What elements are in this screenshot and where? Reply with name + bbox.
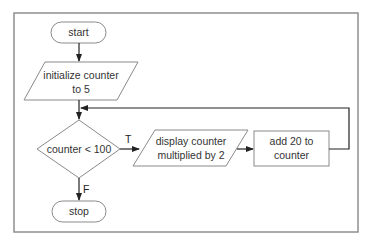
init-label-line2: to 5 [72, 83, 90, 95]
init-label-line1: initialize counter [43, 69, 119, 81]
false-label: F [83, 183, 89, 195]
process-label-line1: add 20 to [270, 135, 314, 147]
flowchart-diagram: start initialize counter to 5 counter < … [0, 0, 367, 242]
stop-terminator: stop [52, 201, 106, 222]
true-label: T [125, 133, 132, 145]
start-label: start [68, 26, 89, 38]
process-label-line2: counter [274, 149, 310, 161]
decision-diamond: counter < 100 [37, 120, 120, 178]
add-process-box: add 20 to counter [254, 131, 329, 166]
stop-label: stop [69, 205, 89, 217]
display-label-line1: display counter [156, 135, 227, 147]
diagram-frame [14, 13, 358, 232]
display-label-line2: multiplied by 2 [157, 149, 224, 161]
decision-label: counter < 100 [47, 143, 112, 155]
initialize-input-shape: initialize counter to 5 [24, 62, 138, 100]
display-output-shape: display counter multiplied by 2 [133, 130, 248, 166]
start-terminator: start [51, 22, 106, 43]
